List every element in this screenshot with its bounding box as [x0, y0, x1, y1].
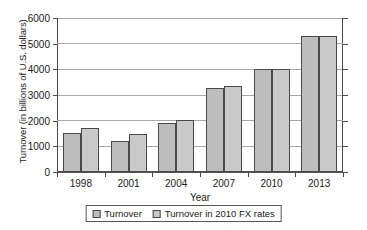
x-axis-tick-label: 2004	[165, 178, 187, 189]
x-axis-tick	[105, 172, 106, 177]
y-axis-tick-label: 5000	[28, 38, 50, 49]
y-axis-tick	[53, 18, 58, 19]
bar	[129, 134, 147, 172]
x-axis-tick	[152, 172, 153, 177]
bar	[206, 88, 224, 172]
legend-label: Turnover in 2010 FX rates	[165, 208, 275, 219]
y-axis-tick-right	[342, 44, 348, 45]
y-axis-tick	[53, 69, 58, 70]
bar	[224, 86, 242, 172]
x-axis-tick	[248, 172, 249, 177]
y-axis-tick	[53, 121, 58, 122]
bar	[63, 133, 81, 172]
legend-item[interactable]: Turnover	[92, 208, 142, 219]
y-axis-tick-label: 1000	[28, 141, 50, 152]
bar	[81, 128, 99, 172]
gridline	[57, 146, 343, 147]
y-axis-tick-right	[342, 69, 348, 70]
y-axis-tick	[53, 146, 58, 147]
x-axis-tick-label: 2007	[213, 178, 235, 189]
x-axis-title: Year	[57, 192, 343, 203]
x-axis-tick-label: 2010	[260, 178, 282, 189]
y-axis-tick	[53, 95, 58, 96]
legend-swatch-icon	[153, 210, 161, 218]
plot-area: 0100020003000400050006000	[57, 18, 343, 172]
x-axis-tick	[295, 172, 296, 177]
x-axis-tick	[57, 172, 58, 177]
bar	[272, 69, 290, 172]
chart-legend: TurnoverTurnover in 2010 FX rates	[85, 205, 282, 222]
bar	[111, 141, 129, 172]
x-axis-tick	[343, 172, 344, 177]
x-axis-tick-label: 2013	[308, 178, 330, 189]
y-axis-tick-right	[342, 18, 348, 19]
y-axis-tick-right	[342, 121, 348, 122]
bar	[301, 36, 319, 172]
legend-label: Turnover	[104, 208, 142, 219]
bar	[176, 120, 194, 172]
gridline	[57, 18, 343, 19]
bar	[319, 36, 337, 172]
bar-chart: Turnover (in billions of U.S. dollars) 0…	[0, 0, 367, 230]
x-axis-tick	[200, 172, 201, 177]
gridline	[57, 95, 343, 96]
y-axis-tick-label: 4000	[28, 64, 50, 75]
gridline	[57, 120, 343, 121]
y-axis-title: Turnover (in billions of U.S. dollars)	[17, 7, 28, 177]
y-axis-tick-label: 0	[44, 167, 50, 178]
y-axis-tick	[53, 44, 58, 45]
gridline	[57, 43, 343, 44]
y-axis-tick-label: 3000	[28, 90, 50, 101]
y-axis-tick-label: 6000	[28, 13, 50, 24]
y-axis-tick-right	[342, 146, 348, 147]
x-axis-tick-label: 2001	[117, 178, 139, 189]
bar	[158, 123, 176, 172]
gridline	[57, 69, 343, 70]
y-axis-tick-right	[342, 95, 348, 96]
legend-item[interactable]: Turnover in 2010 FX rates	[153, 208, 275, 219]
x-axis-tick-label: 1998	[70, 178, 92, 189]
y-axis-tick-label: 2000	[28, 115, 50, 126]
legend-swatch-icon	[92, 210, 100, 218]
bar	[254, 69, 272, 172]
